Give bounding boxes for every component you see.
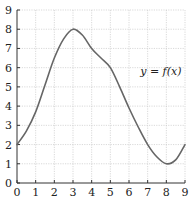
axes [17, 10, 185, 183]
annotations: y = f(x) [139, 65, 181, 78]
x-tick-label: 4 [88, 186, 95, 199]
y-tick-label: 5 [5, 81, 12, 94]
y-tick-label: 2 [5, 139, 12, 152]
x-tick-label: 2 [51, 186, 58, 199]
x-tick-label: 5 [107, 186, 114, 199]
y-tick-label: 4 [5, 100, 12, 113]
x-tick-label: 9 [182, 186, 189, 199]
x-tick-label: 3 [70, 186, 77, 199]
y-tick-label: 9 [5, 4, 12, 17]
x-tick-label: 8 [163, 186, 170, 199]
y-tick-label: 3 [5, 119, 12, 132]
y-tick-label: 6 [5, 62, 12, 75]
series [17, 29, 185, 164]
series-line-0 [17, 29, 185, 164]
grid [17, 10, 185, 183]
ticks: 01234567890123456789 [5, 4, 189, 199]
curve-label: y = f(x) [139, 65, 181, 78]
y-tick-label: 7 [5, 42, 12, 55]
function-plot: 01234567890123456789 y = f(x) [0, 0, 191, 200]
y-tick-label: 8 [5, 23, 12, 36]
x-tick-label: 1 [32, 186, 39, 199]
x-tick-label: 6 [126, 186, 133, 199]
x-tick-label: 7 [144, 186, 151, 199]
y-tick-label: 0 [5, 177, 12, 190]
y-tick-label: 1 [5, 158, 12, 171]
x-tick-label: 0 [14, 186, 21, 199]
